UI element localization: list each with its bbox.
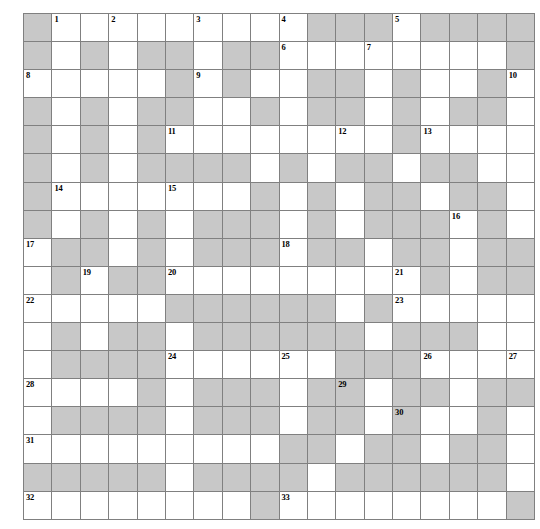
crossword-open-cell[interactable]: 3 [194,14,222,42]
crossword-open-cell[interactable] [137,491,165,519]
crossword-open-cell[interactable] [478,126,506,154]
crossword-open-cell[interactable] [222,491,250,519]
crossword-open-cell[interactable]: 7 [364,42,392,70]
crossword-open-cell[interactable] [251,266,279,294]
crossword-open-cell[interactable] [194,435,222,463]
crossword-open-cell[interactable] [137,435,165,463]
crossword-open-cell[interactable] [307,154,335,182]
crossword-open-cell[interactable] [109,42,137,70]
crossword-open-cell[interactable]: 9 [194,70,222,98]
crossword-open-cell[interactable] [52,42,80,70]
crossword-open-cell[interactable] [194,266,222,294]
crossword-open-cell[interactable] [478,154,506,182]
crossword-open-cell[interactable] [421,435,449,463]
crossword-open-cell[interactable]: 24 [165,351,193,379]
crossword-open-cell[interactable] [137,70,165,98]
crossword-open-cell[interactable] [336,266,364,294]
crossword-open-cell[interactable] [251,126,279,154]
crossword-open-cell[interactable] [307,463,335,491]
crossword-open-cell[interactable] [449,70,477,98]
crossword-open-cell[interactable] [80,435,108,463]
crossword-open-cell[interactable] [165,323,193,351]
crossword-open-cell[interactable] [52,379,80,407]
crossword-open-cell[interactable] [478,323,506,351]
crossword-open-cell[interactable] [80,294,108,322]
crossword-open-cell[interactable] [393,42,421,70]
crossword-grid[interactable]: 1234567891011121314151617181920212223242… [23,13,535,520]
crossword-open-cell[interactable] [307,266,335,294]
crossword-open-cell[interactable] [222,351,250,379]
crossword-open-cell[interactable] [449,294,477,322]
crossword-open-cell[interactable] [194,491,222,519]
crossword-open-cell[interactable] [336,294,364,322]
crossword-open-cell[interactable]: 13 [421,126,449,154]
crossword-open-cell[interactable] [478,351,506,379]
crossword-open-cell[interactable] [109,70,137,98]
crossword-open-cell[interactable] [109,238,137,266]
crossword-open-cell[interactable]: 26 [421,351,449,379]
crossword-open-cell[interactable] [279,70,307,98]
crossword-open-cell[interactable] [137,182,165,210]
crossword-open-cell[interactable] [109,294,137,322]
crossword-open-cell[interactable]: 17 [24,238,52,266]
crossword-open-cell[interactable] [364,126,392,154]
crossword-open-cell[interactable] [336,435,364,463]
crossword-open-cell[interactable] [194,182,222,210]
crossword-open-cell[interactable] [165,491,193,519]
crossword-open-cell[interactable] [80,323,108,351]
crossword-open-cell[interactable] [222,266,250,294]
crossword-open-cell[interactable] [222,182,250,210]
crossword-open-cell[interactable] [364,407,392,435]
crossword-open-cell[interactable] [52,126,80,154]
crossword-open-cell[interactable]: 25 [279,351,307,379]
crossword-open-cell[interactable] [478,42,506,70]
crossword-open-cell[interactable] [80,379,108,407]
crossword-open-cell[interactable] [165,435,193,463]
crossword-open-cell[interactable] [449,379,477,407]
crossword-open-cell[interactable] [24,351,52,379]
crossword-open-cell[interactable] [506,407,534,435]
crossword-open-cell[interactable] [222,14,250,42]
crossword-open-cell[interactable] [279,407,307,435]
crossword-open-cell[interactable] [80,14,108,42]
crossword-open-cell[interactable] [194,126,222,154]
crossword-open-cell[interactable]: 19 [80,266,108,294]
crossword-open-cell[interactable] [165,463,193,491]
crossword-open-cell[interactable] [364,491,392,519]
crossword-open-cell[interactable]: 21 [393,266,421,294]
crossword-open-cell[interactable] [109,182,137,210]
crossword-open-cell[interactable] [109,379,137,407]
crossword-open-cell[interactable] [307,351,335,379]
crossword-open-cell[interactable] [336,42,364,70]
crossword-open-cell[interactable] [506,435,534,463]
crossword-open-cell[interactable] [478,294,506,322]
crossword-open-cell[interactable] [194,351,222,379]
crossword-open-cell[interactable] [478,491,506,519]
crossword-open-cell[interactable] [194,98,222,126]
crossword-open-cell[interactable] [165,407,193,435]
crossword-open-cell[interactable] [307,42,335,70]
crossword-open-cell[interactable] [279,210,307,238]
crossword-open-cell[interactable] [24,407,52,435]
crossword-open-cell[interactable]: 14 [52,182,80,210]
crossword-open-cell[interactable] [52,154,80,182]
crossword-open-cell[interactable] [137,14,165,42]
crossword-open-cell[interactable] [52,210,80,238]
crossword-open-cell[interactable]: 33 [279,491,307,519]
crossword-open-cell[interactable] [137,294,165,322]
crossword-open-cell[interactable] [109,98,137,126]
crossword-open-cell[interactable] [80,491,108,519]
crossword-open-cell[interactable] [336,491,364,519]
crossword-open-cell[interactable]: 16 [449,210,477,238]
crossword-open-cell[interactable] [109,435,137,463]
crossword-open-cell[interactable] [364,266,392,294]
crossword-open-cell[interactable] [109,154,137,182]
crossword-open-cell[interactable] [506,210,534,238]
crossword-open-cell[interactable] [393,491,421,519]
crossword-open-cell[interactable] [222,435,250,463]
crossword-open-cell[interactable] [24,266,52,294]
crossword-open-cell[interactable] [307,491,335,519]
crossword-open-cell[interactable] [336,210,364,238]
crossword-open-cell[interactable] [421,491,449,519]
crossword-open-cell[interactable] [165,14,193,42]
